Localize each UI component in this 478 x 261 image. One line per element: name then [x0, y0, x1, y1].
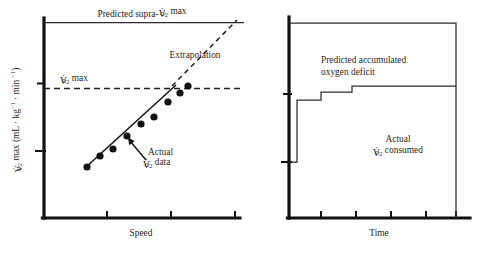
actual-data-points	[83, 82, 191, 170]
left-panel-y-axis-label: V̇O2 max (mL · kg−1 · min −1)	[9, 68, 24, 173]
scientific-figure: V̇O2 max (mL · kg−1 · min −1) Predicted …	[0, 0, 478, 261]
predicted-supra-label: Predicted supra-V̇O2 max	[97, 6, 186, 19]
right-panel-x-axis-label: Time	[369, 228, 388, 238]
oxygen-deficit-vs-time-panel: Predicted accumulated oxygen deficit Act…	[281, 17, 470, 238]
svg-text:Predicted supra-V̇O2 max: Predicted supra-V̇O2 max	[97, 6, 186, 19]
data-point	[164, 98, 171, 105]
vo2max-level-label: V̇O2 max	[60, 73, 88, 86]
svg-text:Actual: Actual	[386, 134, 411, 144]
data-point	[137, 120, 144, 127]
svg-text:V̇O2 max: V̇O2 max	[60, 73, 88, 86]
figure-container: V̇O2 max (mL · kg−1 · min −1) Predicted …	[0, 0, 478, 261]
predicted-deficit-boundary	[289, 23, 456, 218]
left-panel-x-axis-label: Speed	[130, 228, 153, 238]
actual-data-label: Actual V̇O2 data	[143, 147, 173, 170]
extrapolation-label: Extrapolation	[169, 50, 220, 60]
actual-data-callout-arrow	[128, 138, 146, 161]
data-point	[184, 82, 191, 89]
actual-consumed-label: Actual V̇O2 consumed	[373, 134, 423, 158]
vo2-max-vs-speed-panel: V̇O2 max (mL · kg−1 · min −1) Predicted …	[9, 6, 244, 238]
data-point	[109, 145, 116, 152]
svg-text:V̇O2 max (mL · kg−1 · min −1): V̇O2 max (mL · kg−1 · min −1)	[9, 68, 24, 173]
predicted-deficit-label: Predicted accumulated oxygen deficit	[321, 55, 406, 77]
svg-text:V̇O2 data: V̇O2 data	[143, 157, 171, 170]
data-point	[150, 113, 157, 120]
svg-text:Actual: Actual	[148, 147, 173, 157]
svg-text:Predicted accumulated: Predicted accumulated	[321, 55, 406, 65]
data-point	[176, 89, 183, 96]
svg-text:oxygen deficit: oxygen deficit	[321, 67, 375, 77]
svg-text:V̇O2 consumed: V̇O2 consumed	[373, 145, 423, 158]
data-point	[96, 152, 103, 159]
data-point	[83, 163, 90, 170]
